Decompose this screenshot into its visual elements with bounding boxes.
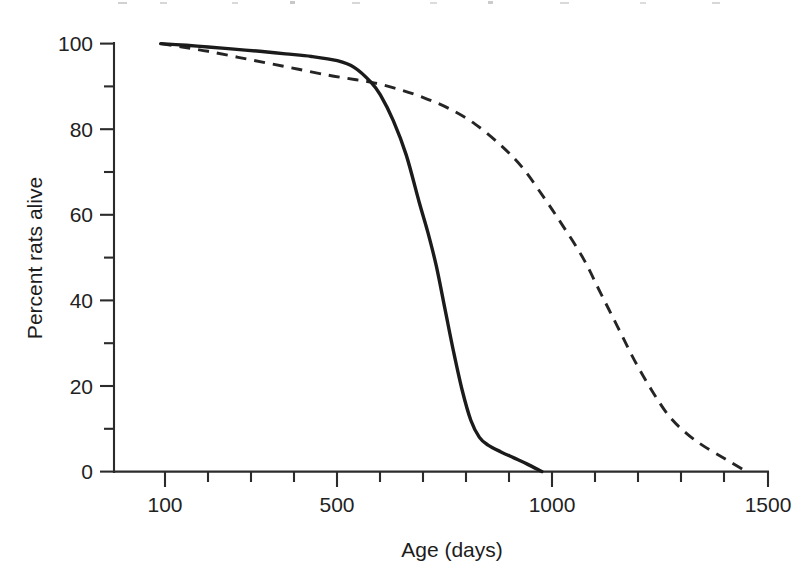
y-tick-label-60: 60 — [70, 203, 93, 226]
figure-container: 100 80 60 40 20 0 Percent rats alive — [0, 0, 812, 580]
scan-artifacts — [118, 1, 720, 4]
dashed-curve — [161, 44, 747, 472]
y-tick-label-0: 0 — [81, 460, 93, 483]
x-tick-label-1000: 1000 — [529, 493, 576, 516]
x-tick-label-500: 500 — [319, 493, 354, 516]
solid-curve — [161, 44, 542, 472]
axis-x: 100 500 1000 1500 Age (days) — [114, 472, 791, 561]
y-tick-label-80: 80 — [70, 118, 93, 141]
x-tick-label-1500: 1500 — [745, 493, 792, 516]
axis-y: 100 80 60 40 20 0 Percent rats alive — [23, 32, 114, 483]
y-tick-label-100: 100 — [58, 32, 93, 55]
y-tick-label-20: 20 — [70, 375, 93, 398]
x-axis-title: Age (days) — [401, 538, 503, 561]
x-tick-label-100: 100 — [147, 493, 182, 516]
survival-curve-chart: 100 80 60 40 20 0 Percent rats alive — [0, 0, 812, 580]
y-tick-label-40: 40 — [70, 289, 93, 312]
y-axis-title: Percent rats alive — [23, 177, 46, 339]
series-group — [161, 44, 747, 472]
